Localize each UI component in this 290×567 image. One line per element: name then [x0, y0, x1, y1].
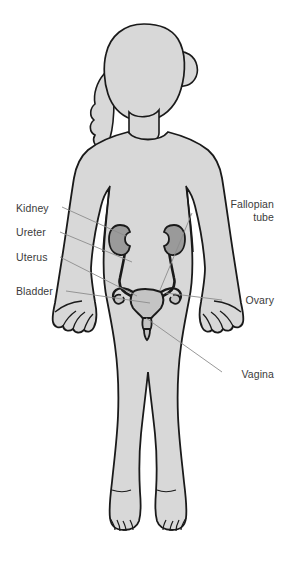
label-fallopian-tube: Fallopian tube — [196, 198, 274, 224]
label-vagina: Vagina — [196, 368, 274, 381]
anatomy-figure — [0, 0, 290, 567]
head — [104, 24, 184, 121]
label-ovary: Ovary — [196, 294, 274, 307]
diagram-canvas: Kidney Ureter Uterus Bladder Fallopian t… — [0, 0, 290, 567]
vagina — [144, 329, 150, 340]
label-uterus: Uterus — [16, 251, 86, 264]
label-ureter: Ureter — [16, 226, 86, 239]
label-bladder: Bladder — [16, 285, 86, 298]
label-kidney: Kidney — [16, 202, 86, 215]
body-silhouette — [53, 24, 244, 531]
